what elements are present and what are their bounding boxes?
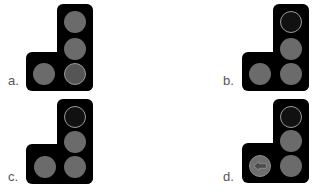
lamp-top xyxy=(280,11,302,33)
lamp-top xyxy=(280,106,302,128)
panel-label-b: b. xyxy=(223,74,234,87)
lamp-bottom-right xyxy=(64,156,86,178)
panel-label-a: a. xyxy=(8,74,19,87)
traffic-light-panel-c: c. xyxy=(0,96,110,192)
lamp-top xyxy=(64,106,86,128)
lamp-middle xyxy=(64,131,86,153)
left-arrow-icon xyxy=(250,156,270,176)
lamp-middle xyxy=(64,38,86,60)
lamp-bottom-left xyxy=(249,63,271,85)
lamp-bottom-left xyxy=(33,63,55,85)
lamp-middle xyxy=(280,38,302,60)
lamp-middle xyxy=(280,130,302,152)
lamp-bottom-right xyxy=(64,63,86,85)
lamp-bottom-right xyxy=(280,155,302,177)
lamp-top xyxy=(64,11,86,33)
lamp-bottom-left xyxy=(34,156,56,178)
lamp-bottom-right xyxy=(280,63,302,85)
traffic-light-panel-a: a. xyxy=(0,0,110,96)
panel-label-d: d. xyxy=(223,170,234,183)
traffic-light-panel-b: b. xyxy=(200,0,319,96)
lamp-bottom-left-arrow xyxy=(249,155,271,177)
panel-label-c: c. xyxy=(8,170,18,183)
traffic-light-panel-d: d. xyxy=(200,96,319,192)
